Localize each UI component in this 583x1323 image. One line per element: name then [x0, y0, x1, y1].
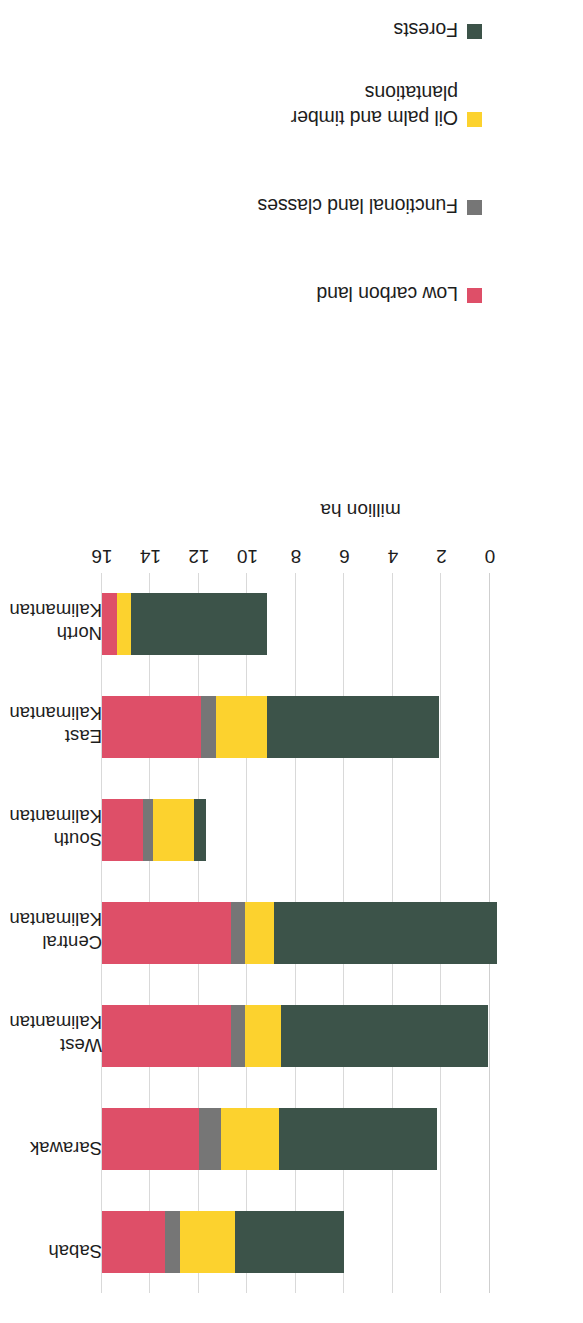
- legend-swatch-icon: [467, 24, 482, 39]
- category-label-line2: Kalimantan: [6, 805, 102, 828]
- chart-figure: SabahSarawakWestKalimantanCentralKaliman…: [0, 0, 583, 1323]
- legend-item-0[interactable]: Low carbon land: [316, 281, 482, 306]
- category-axis: SabahSarawakWestKalimantanCentralKaliman…: [0, 533, 583, 1293]
- legend-label: Low carbon land: [316, 281, 458, 306]
- value-tick-10: 10: [228, 545, 268, 567]
- value-tick-16: 16: [82, 545, 122, 567]
- category-label-6: EastKalimantan: [6, 702, 102, 748]
- category-label-line2: Kalimantan: [6, 1011, 102, 1034]
- plot-area: SabahSarawakWestKalimantanCentralKaliman…: [0, 338, 583, 1323]
- chart-legend: Low carbon landFunctional land classesOi…: [0, 0, 583, 338]
- category-label-3: WestKalimantan: [6, 1011, 102, 1057]
- category-label-5: SouthKalimantan: [6, 805, 102, 851]
- legend-label: Forests: [394, 17, 458, 42]
- category-label-line2: Kalimantan: [6, 908, 102, 931]
- legend-item-3[interactable]: Forests: [394, 17, 482, 42]
- category-label-line2: Kalimantan: [6, 702, 102, 725]
- category-label-7: NorthKalimantan: [6, 599, 102, 645]
- legend-label: Oil palm and timber plantations: [291, 80, 458, 130]
- value-axis: 0246810121416 million ha: [0, 457, 583, 567]
- legend-label: Functional land classes: [258, 193, 458, 218]
- value-tick-4: 4: [373, 545, 413, 567]
- category-label-line2: Kalimantan: [6, 599, 102, 622]
- category-label-1: Sabah: [6, 1240, 102, 1263]
- category-label-line1: East: [6, 725, 102, 748]
- value-tick-0: 0: [470, 545, 510, 567]
- legend-item-1[interactable]: Functional land classes: [258, 193, 482, 218]
- category-label-line1: West: [6, 1034, 102, 1057]
- value-tick-2: 2: [422, 545, 462, 567]
- value-axis-title-text: million ha: [320, 499, 400, 521]
- category-label-2: Sarawak: [6, 1137, 102, 1160]
- legend-swatch-icon: [467, 112, 482, 127]
- category-label-line1: South: [6, 828, 102, 851]
- legend-item-2[interactable]: Oil palm and timber plantations: [291, 80, 482, 130]
- value-tick-14: 14: [131, 545, 171, 567]
- category-label-line1: Sarawak: [6, 1137, 102, 1160]
- category-label-line1: North: [6, 622, 102, 645]
- legend-swatch-icon: [467, 288, 482, 303]
- legend-swatch-icon: [467, 200, 482, 215]
- chart-canvas: SabahSarawakWestKalimantanCentralKaliman…: [0, 0, 583, 1323]
- value-axis-title: million ha: [0, 499, 583, 521]
- value-tick-8: 8: [276, 545, 316, 567]
- category-label-line1: Sabah: [6, 1240, 102, 1263]
- value-tick-12: 12: [179, 545, 219, 567]
- category-label-line1: Central: [6, 931, 102, 954]
- value-tick-6: 6: [325, 545, 365, 567]
- category-label-4: CentralKalimantan: [6, 908, 102, 954]
